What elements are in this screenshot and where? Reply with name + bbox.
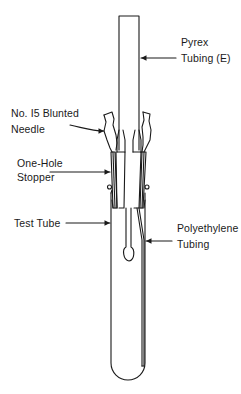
label-pyrex-line2: Tubing (E) — [181, 52, 231, 65]
label-pyrex-line1: Pyrex — [181, 36, 231, 49]
label-polyethylene-line2: Tubing — [177, 238, 238, 251]
label-stopper-line1: One-Hole — [17, 157, 63, 170]
label-test-tube: Test Tube — [14, 217, 60, 230]
pyrex-bulb — [124, 208, 134, 261]
apparatus-diagram: Pyrex Tubing (E) No. I5 Blunted Needle O… — [0, 0, 241, 394]
label-one-hole-stopper: One-Hole Stopper — [17, 157, 63, 184]
test-tube — [108, 185, 150, 380]
inner-glass-tubes — [117, 130, 141, 152]
pyrex-tubing — [119, 16, 139, 150]
label-polyethylene-line1: Polyethylene — [177, 222, 238, 235]
label-test-tube-line1: Test Tube — [14, 217, 60, 230]
label-needle-line2: Needle — [11, 123, 79, 136]
label-stopper-line2: Stopper — [17, 171, 63, 184]
label-pyrex-tubing: Pyrex Tubing (E) — [181, 36, 231, 65]
label-blunted-needle: No. I5 Blunted Needle — [11, 107, 79, 136]
label-polyethylene-tubing: Polyethylene Tubing — [177, 222, 238, 251]
polyethylene-tubing — [137, 208, 144, 366]
label-needle-line1: No. I5 Blunted — [11, 107, 79, 120]
